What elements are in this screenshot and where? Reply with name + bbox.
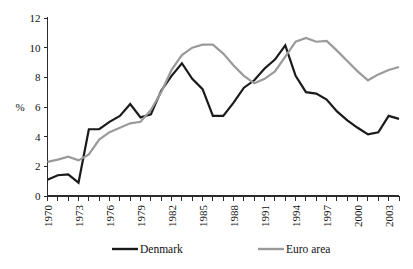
x-tick-label: 1994 <box>290 205 302 228</box>
y-tick-label: 0 <box>35 190 41 202</box>
x-tick-label: 1997 <box>321 205 333 228</box>
x-tick-label: 2003 <box>383 205 395 228</box>
plot-area: 024681012%197019731976197919821985198819… <box>15 12 399 255</box>
x-tick-label: 2000 <box>352 205 364 228</box>
y-tick-label: 8 <box>35 71 41 83</box>
x-tick-label: 1982 <box>166 205 178 227</box>
y-axis-title: % <box>15 101 24 113</box>
series-line-denmark <box>48 45 400 182</box>
series-line-euro-area <box>48 38 400 162</box>
x-tick-label: 1988 <box>228 205 240 228</box>
chart-canvas: 024681012%197019731976197919821985198819… <box>0 0 413 269</box>
line-chart: 024681012%197019731976197919821985198819… <box>0 0 413 269</box>
x-tick-label: 1976 <box>104 205 116 228</box>
legend-label-denmark: Denmark <box>140 243 183 255</box>
x-tick-label: 1985 <box>197 205 209 228</box>
y-tick-label: 10 <box>30 42 42 54</box>
legend-label-euro-area: Euro area <box>286 243 330 255</box>
y-tick-label: 12 <box>30 12 41 24</box>
y-tick-label: 4 <box>35 131 41 143</box>
x-tick-label: 1970 <box>42 205 54 228</box>
x-tick-label: 1991 <box>259 205 271 227</box>
y-tick-label: 6 <box>35 101 41 113</box>
x-tick-label: 1973 <box>73 205 85 228</box>
x-tick-label: 1979 <box>135 205 147 228</box>
y-tick-label: 2 <box>35 160 41 172</box>
